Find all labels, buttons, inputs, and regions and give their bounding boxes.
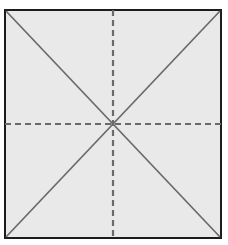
square-symmetry-figure (0, 0, 228, 245)
